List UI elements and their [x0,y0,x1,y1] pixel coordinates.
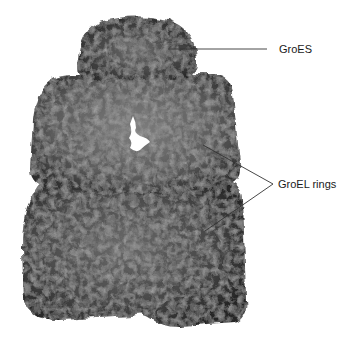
groel-lower-ring [22,181,246,326]
groes-cap [77,16,197,80]
groel-rings-label: GroEL rings [278,178,336,190]
groes-label: GroES [279,43,312,55]
